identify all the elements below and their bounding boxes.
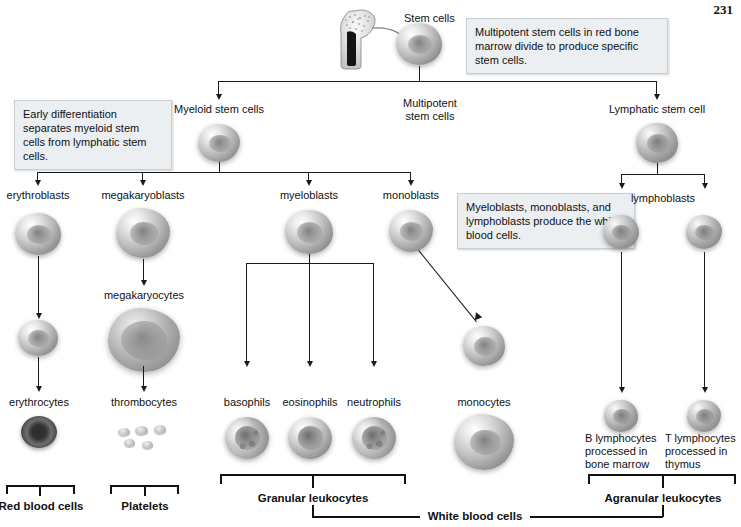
neutrophil-image [352, 417, 396, 459]
label-multipotent-line2: stem cells [406, 110, 455, 122]
arrowhead-to-erythrocytes [36, 386, 42, 392]
erythroblast-image [15, 213, 61, 255]
callout-multipotent-note: Multipotent stem cells in red bone marro… [466, 18, 668, 74]
label-thrombocytes: thrombocytes [111, 396, 177, 409]
bracket-granular-stem [312, 474, 314, 488]
bracket-platelets-right [177, 485, 179, 494]
label-erythrocytes: erythrocytes [9, 396, 69, 409]
connector-granulocyte-left-riser [246, 263, 247, 362]
connector-stem-down [419, 66, 420, 82]
arrowhead-to-b-lymphoblast [619, 183, 625, 189]
connector-granulocyte-right-riser [373, 263, 374, 362]
b-lymphocyte-image [604, 400, 638, 432]
arrowhead-to-myeloid [216, 94, 222, 100]
t-lymphocyte-image [687, 400, 721, 432]
bracket-platelets-stem [144, 485, 146, 496]
label-stem-cells: Stem cells [404, 12, 455, 25]
t-lymphoblast-image [686, 215, 722, 249]
callout-early-differentiation-note: Early differentiation separates myeloid … [14, 100, 172, 170]
connector-myeloid-bus [37, 172, 410, 173]
connector-lymphatic-bus [621, 174, 704, 175]
label-neutrophils: neutrophils [347, 396, 401, 409]
bracket-wbc-right-rail [530, 516, 663, 518]
arrowhead-to-myeloblasts [306, 180, 312, 186]
page-number: 231 [714, 2, 734, 18]
connector-to-myeloid [218, 81, 219, 95]
label-b-lymphocytes: B lymphocytes processed in bone marrow [585, 432, 663, 471]
arrowhead-to-lymphatic [654, 94, 660, 100]
myeloblast-image [285, 210, 333, 254]
erythrocyte-precursor-image [18, 320, 58, 356]
bracket-granular-right [404, 474, 406, 484]
connector-stem-bus [218, 81, 656, 82]
label-multipotent-stem-cells: Multipotent stem cells [382, 97, 478, 123]
label-monocytes: monocytes [457, 396, 510, 409]
arrowhead-to-neutrophils [371, 361, 377, 367]
monocyte-precursor-image [463, 326, 505, 366]
bracket-red-blood-cells-stem [39, 485, 41, 496]
platelet-icon [135, 426, 148, 435]
arrowhead-to-b-lymphocytes [619, 387, 625, 393]
arrowhead-to-basophils [244, 361, 250, 367]
label-lymphatic-stem-cell: Lymphatic stem cell [609, 103, 705, 116]
label-erythroblasts: erythroblasts [7, 189, 70, 202]
platelet-icon [118, 428, 130, 436]
myeloid-stem-cell-image [198, 124, 240, 162]
arrowhead-to-megakaryoblasts [140, 180, 146, 186]
platelet-icon [142, 441, 153, 449]
basophil-image [225, 417, 269, 459]
arrowhead-to-eosinophils [307, 361, 313, 367]
hematopoiesis-diagram: 231 Stem cells Multip [0, 0, 741, 527]
lymphatic-stem-cell-image [636, 123, 678, 163]
arrowhead-to-t-lymphocytes [702, 387, 708, 393]
label-t-lymphocytes: T lymphocytes processed in thymus [665, 432, 741, 471]
connector-t-lymphoblast-down [704, 252, 705, 388]
monocyte-image [454, 414, 514, 470]
bracket-agranular-stem [662, 474, 664, 488]
connector-myeloblast-down [309, 254, 310, 362]
connector-megakaryoblast-down [143, 259, 144, 281]
label-platelets: Platelets [121, 500, 168, 513]
b-lymphoblast-image [603, 215, 639, 249]
bracket-wbc-left-rail [312, 516, 420, 518]
monoblast-image [389, 210, 433, 252]
erythrocyte-image [21, 416, 57, 448]
arrowhead-to-monocytes [472, 312, 483, 322]
label-myeloblasts: myeloblasts [280, 189, 338, 202]
thrombocyte-image-group [116, 424, 174, 452]
label-agranular-leukocytes: Agranular leukocytes [605, 492, 722, 505]
label-basophils: basophils [224, 396, 270, 409]
label-myeloid-stem-cells: Myeloid stem cells [174, 103, 264, 116]
bracket-agranular-left [588, 474, 590, 484]
platelet-icon [154, 425, 166, 434]
label-multipotent-line1: Multipotent [403, 97, 457, 109]
label-eosinophils: eosinophils [282, 396, 337, 409]
label-megakaryocytes: megakaryocytes [104, 289, 184, 302]
arrowhead-to-erythroblasts [35, 180, 41, 186]
connector-to-lymphatic [656, 81, 657, 95]
megakaryocyte-image [108, 308, 180, 372]
connector-megakaryocyte-down [143, 366, 144, 388]
connector-monoblast-to-monocyte [418, 250, 477, 322]
bracket-red-blood-cells-right [73, 485, 75, 494]
label-granular-leukocytes: Granular leukocytes [258, 492, 369, 505]
stem-cell-image [396, 23, 442, 65]
label-lymphoblasts: lymphoblasts [631, 192, 695, 205]
label-white-blood-cells: White blood cells [428, 510, 523, 523]
arrowhead-to-erythrocyte-stage [36, 313, 42, 319]
label-megakaryoblasts: megakaryoblasts [101, 189, 184, 202]
bracket-agranular-right [734, 474, 736, 484]
label-red-blood-cells: Red blood cells [0, 500, 84, 513]
bracket-platelets-left [110, 485, 112, 494]
bracket-red-blood-cells-left [6, 485, 8, 494]
connector-erythroblast-down [38, 256, 39, 314]
label-monoblasts: monoblasts [383, 189, 439, 202]
arrowhead-to-thrombocytes [141, 386, 147, 392]
bracket-granular-left [220, 474, 222, 484]
megakaryoblast-image [116, 208, 170, 258]
eosinophil-image [288, 417, 332, 459]
connector-b-lymphoblast-down [621, 252, 622, 388]
connector-erythrocyte-down [38, 357, 39, 387]
arrowhead-to-megakaryocytes [141, 280, 147, 286]
arrowhead-to-monoblasts [408, 180, 414, 186]
